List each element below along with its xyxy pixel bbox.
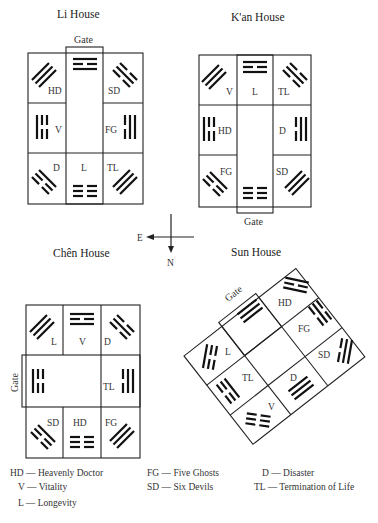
cell-label: HD [73, 418, 87, 428]
trigram-icon [243, 62, 267, 72]
trigram-icon [113, 63, 137, 87]
cell-label: FG [220, 167, 232, 177]
legend-item-v: V — Vitality [18, 481, 67, 494]
cell-label: D [290, 373, 297, 383]
trigram-icon [283, 63, 307, 87]
li-house: Li House Gate HD SD V FG D L TL [28, 8, 143, 204]
cell-label: D [53, 163, 60, 173]
li-gate-label: Gate [74, 34, 93, 45]
trigram-icon [338, 338, 352, 363]
trigram-icon [237, 300, 262, 323]
chen-gate-label: Gate [9, 373, 20, 392]
trigram-icon [73, 186, 97, 196]
trigram-icon [70, 314, 94, 324]
cell-label: TL [242, 373, 254, 383]
north-arrow-icon [168, 246, 174, 253]
trigram-icon [125, 115, 135, 139]
trigram-icon [32, 63, 56, 87]
cell-label: HD [218, 126, 232, 136]
compass: E N [137, 214, 194, 268]
trigram-icon [285, 171, 309, 195]
trigram-icon [31, 425, 55, 449]
li-gate-column [66, 47, 103, 204]
cell-label: D [104, 337, 111, 347]
cell-label: L [81, 163, 87, 173]
trigram-icon [309, 300, 332, 325]
cell-label: L [225, 347, 231, 357]
trigram-icon [70, 437, 94, 447]
trigram-icon [73, 59, 97, 69]
legend-item-hd: HD — Heavenly Doctor [10, 467, 103, 480]
cell-label: D [279, 126, 286, 136]
trigram-icon [110, 315, 134, 339]
trigram-icon [243, 188, 267, 198]
trigram-icon [217, 378, 240, 403]
cell-label: SD [108, 86, 120, 96]
trigram-icon [37, 115, 47, 139]
cell-label: FG [298, 324, 310, 334]
kan-house-title: K'an House [231, 11, 285, 23]
sun-house-title: Sun House [231, 246, 281, 258]
cell-label: HD [48, 86, 62, 96]
trigram-icon [113, 170, 137, 194]
cell-label: V [55, 125, 62, 135]
trigram-icon [203, 344, 217, 369]
cell-label: FG [105, 125, 117, 135]
cell-label: TL [278, 87, 290, 97]
legend-item-sd: SD — Six Devils [147, 481, 213, 494]
cell-label: V [79, 337, 86, 347]
sun-gate-label: Gate [222, 283, 244, 304]
legend-item-l: L — Longevity [18, 497, 77, 510]
cell-label: V [226, 87, 233, 97]
cell-label: SD [318, 350, 330, 360]
cell-label: HD [278, 298, 292, 308]
sun-house: Sun House Gate HD FG SD [181, 246, 365, 444]
legend-item-tl: TL — Termination of Life [254, 481, 354, 494]
cell-label: SD [47, 418, 59, 428]
legend-item-fg: FG — Five Ghosts [147, 467, 219, 480]
trigram-icon [123, 369, 133, 393]
north-label: N [167, 258, 174, 268]
cell-label: SD [276, 167, 288, 177]
trigram-icon [33, 369, 43, 393]
kan-house-outline [199, 55, 311, 207]
cell-label: TL [107, 163, 119, 173]
cell-label: L [252, 87, 258, 97]
cell-label: V [268, 402, 275, 412]
trigram-icon [202, 65, 226, 89]
feng-shui-house-diagram: Li House Gate HD SD V FG D L TL K'an Hou… [0, 0, 378, 523]
kan-gate-label: Gate [244, 216, 263, 227]
legend-item-d: D — Disaster [262, 467, 314, 480]
chen-gate-row [22, 355, 140, 407]
trigram-icon [204, 117, 214, 141]
trigram-icon [32, 170, 56, 194]
trigram-icon [296, 117, 306, 141]
chen-house-title: Chên House [53, 247, 110, 259]
cell-label: FG [105, 418, 117, 428]
kan-house: K'an House Gate V L TL HD D FG SD [199, 11, 311, 227]
cell-label: L [51, 337, 57, 347]
trigram-icon [30, 315, 54, 339]
chen-house: Chên House Gate L V D TL SD HD FG [9, 247, 140, 458]
east-label: E [137, 233, 143, 243]
kan-gate-column [237, 55, 273, 213]
sun-house-outline [184, 269, 365, 445]
east-arrow-icon [146, 234, 154, 240]
cell-label: TL [103, 382, 115, 392]
li-house-title: Li House [57, 8, 99, 20]
trigram-icon [245, 413, 270, 426]
